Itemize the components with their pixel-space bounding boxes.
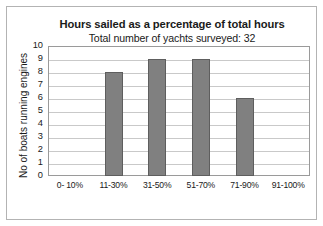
x-tick-label: 51-70% [179,180,223,190]
chart-figure: Hours sailed as a percentage of total ho… [0,0,323,226]
bar [105,72,123,176]
y-tick-label: 1 [3,157,43,167]
y-tick-label: 8 [3,66,43,76]
chart-subtitle: Total number of yachts surveyed: 32 [46,32,298,44]
y-tick-label: 10 [3,40,43,50]
y-tick-label: 3 [3,131,43,141]
chart-title: Hours sailed as a percentage of total ho… [46,18,298,30]
y-tick-label: 2 [3,144,43,154]
y-tick-label: 4 [3,118,43,128]
x-tick-label: 11-30% [92,180,136,190]
x-tick-label: 31-50% [135,180,179,190]
x-tick-label: 71-90% [223,180,267,190]
x-tick-label: 0- 10% [48,180,92,190]
y-tick-label: 6 [3,92,43,102]
y-tick-label: 5 [3,105,43,115]
bar [236,98,254,176]
y-tick-label: 9 [3,53,43,63]
bar [192,59,210,176]
bars-layer [48,46,310,176]
bar [148,59,166,176]
y-tick-label: 7 [3,79,43,89]
x-tick-label: 91-100% [266,180,310,190]
y-tick-label: 0 [3,170,43,180]
